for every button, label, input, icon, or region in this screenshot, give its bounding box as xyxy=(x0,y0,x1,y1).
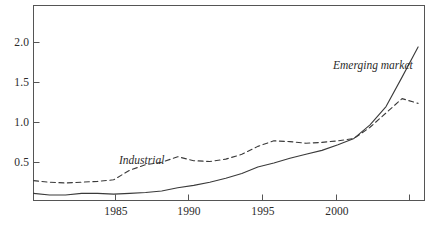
y-axis-label-1-0: 1.0 xyxy=(3,117,29,129)
y-axis-ticks xyxy=(34,43,40,163)
series-annotation-emerging-market: Emerging market xyxy=(333,60,413,72)
y-axis-label-2-0: 2.0 xyxy=(3,37,29,49)
x-axis-label-1985: 1985 xyxy=(96,206,136,218)
chart-container: 2.0 1.5 1.0 0.5 1985 1990 1995 2000 Emer… xyxy=(0,0,437,234)
x-axis-label-1990: 1990 xyxy=(169,206,209,218)
y-axis-label-1-5: 1.5 xyxy=(3,77,29,89)
x-axis-label-2000: 2000 xyxy=(317,206,357,218)
x-axis-label-1995: 1995 xyxy=(243,206,283,218)
y-axis-label-0-5: 0.5 xyxy=(3,157,29,169)
x-axis-ticks xyxy=(116,195,410,201)
plot-frame xyxy=(34,6,425,201)
series-annotation-industrial: Industrial xyxy=(119,155,164,167)
chart-plot-area xyxy=(0,0,437,234)
series-line-industrial xyxy=(34,99,419,183)
